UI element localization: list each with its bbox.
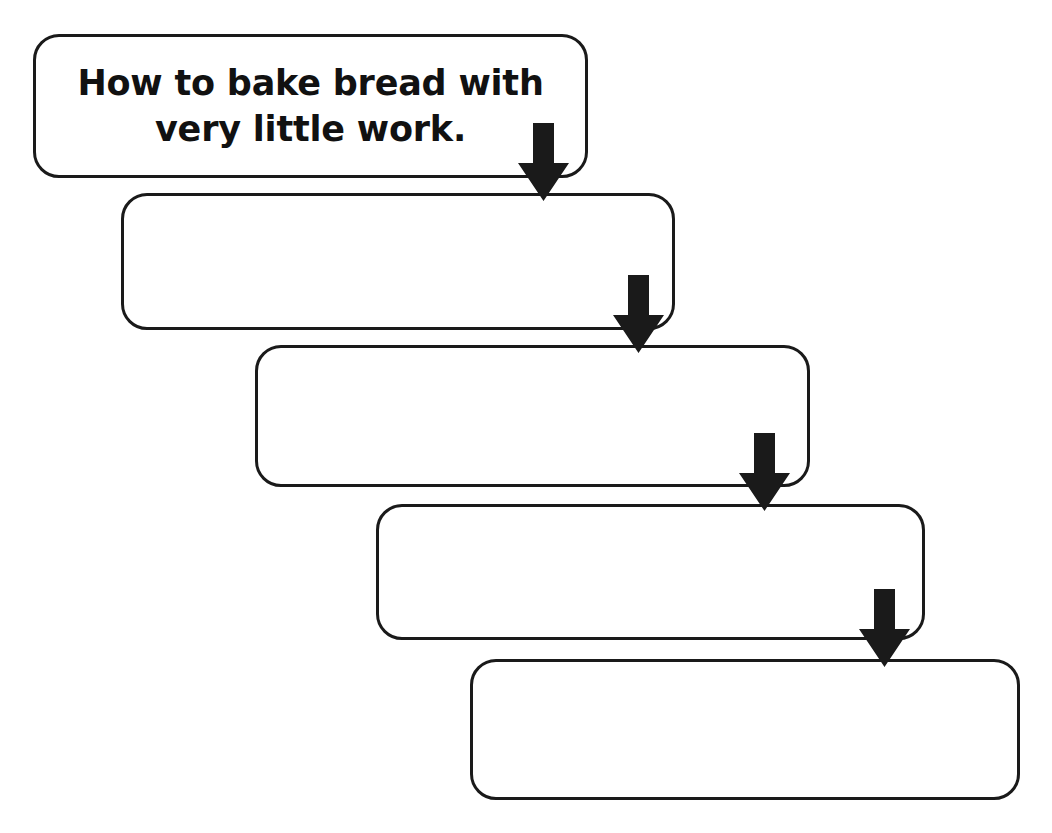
flowchart-step-1-label: How to bake bread with very little work.	[63, 60, 557, 152]
flowchart-step-3[interactable]	[255, 345, 810, 487]
flowchart-step-1[interactable]: How to bake bread with very little work.	[33, 34, 588, 178]
flowchart-step-5[interactable]	[470, 659, 1020, 800]
flowchart-step-2[interactable]	[121, 193, 675, 330]
flowchart-step-4[interactable]	[376, 504, 925, 640]
flowchart-canvas: How to bake bread with very little work.	[0, 0, 1052, 833]
